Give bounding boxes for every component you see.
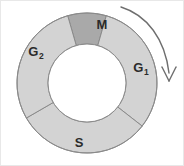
cell-cycle-ring-diagram: MG1SG2: [1, 1, 184, 166]
phase-label-m-phase: M: [97, 17, 108, 32]
phase-label-subscript: 1: [144, 67, 149, 77]
arrow-head-icon: [169, 67, 176, 81]
phase-label-subscript: 2: [39, 51, 44, 61]
cell-cycle-figure: MG1SG2: [0, 0, 184, 166]
phase-label-s-phase: S: [75, 135, 84, 150]
ring-inner-hole: [48, 44, 126, 122]
